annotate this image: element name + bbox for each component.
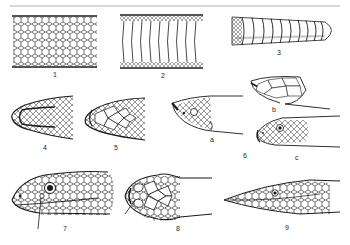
figure-9-slender-head	[222, 178, 340, 218]
figure-7-head-lateral-pit	[10, 170, 115, 229]
figure-6-label: 6	[243, 152, 247, 159]
plate-illustrations	[0, 0, 350, 245]
figure-2-label: 2	[161, 72, 165, 79]
figure-7-label: 7	[63, 225, 67, 232]
figure-6b-label: b	[272, 106, 276, 113]
figure-3-label: 3	[277, 49, 281, 56]
figure-3-rattle	[232, 17, 332, 45]
scale-anatomy-plate: 1 2 3 4 5 6 a b c 7 8 9	[0, 0, 350, 245]
figure-5-head-plates	[84, 96, 146, 142]
figure-1-dorsal-scales	[12, 16, 97, 67]
figure-6b-head-dorsal	[251, 77, 330, 110]
figure-6a-label: a	[210, 136, 214, 143]
figure-2-ventral-plates	[120, 15, 203, 68]
figure-8-head-dorsal	[120, 172, 212, 224]
figure-6a-head-lateral-upturned	[170, 95, 243, 134]
figure-1-label: 1	[53, 71, 57, 78]
figure-4-label: 4	[43, 144, 47, 151]
figure-4-head-granular	[12, 96, 74, 140]
figure-9-label: 9	[285, 224, 289, 231]
figure-8-label: 8	[176, 225, 180, 232]
figure-6c-head-lateral	[255, 116, 340, 147]
figure-6c-label: c	[295, 154, 299, 161]
figure-5-label: 5	[114, 144, 118, 151]
